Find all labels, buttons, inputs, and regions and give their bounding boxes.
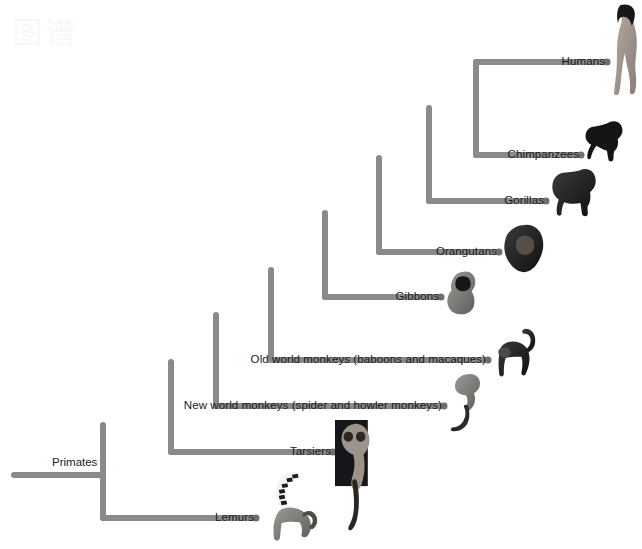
tip-label-gorillas: Gorillas	[504, 195, 544, 207]
baboon-body	[499, 341, 530, 376]
tip-label-lemurs: Lemurs	[215, 512, 254, 524]
tarsier-eye-right	[356, 432, 366, 442]
tip-label-gibbons: Gibbons	[395, 291, 439, 303]
orangutan-face	[516, 236, 534, 255]
spider-monkey-body	[455, 374, 480, 411]
tarsier-eye-left	[344, 432, 354, 442]
gibbon-face	[455, 276, 470, 291]
tarsier-tail	[348, 479, 359, 530]
tip-label-chimpanzees: Chimpanzees	[508, 149, 579, 161]
primate-phylogenetic-tree-figure: 图谱 HumansChimpanzeesGorillasOrangutansGi…	[0, 0, 642, 549]
gorilla-body	[552, 169, 595, 216]
tip-label-humans: Humans	[562, 56, 605, 68]
chimpanzee-body	[586, 121, 623, 161]
root-label-primates: Primates	[52, 457, 97, 469]
tip-label-new-world-monkeys: New world monkeys (spider and howler mon…	[184, 400, 442, 412]
tip-label-tarsiers: Tarsiers	[290, 446, 331, 458]
tip-label-orangutans: Orangutans	[436, 246, 497, 258]
spider-monkey-tail	[451, 405, 470, 431]
tip-label-old-world-monkeys: Old world monkeys (baboons and macaques)	[251, 354, 486, 366]
